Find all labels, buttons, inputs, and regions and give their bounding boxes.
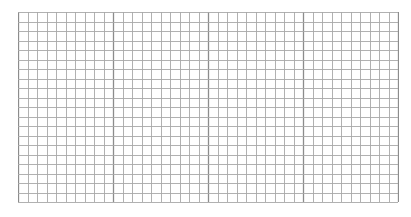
graph-paper-grid xyxy=(18,12,399,205)
